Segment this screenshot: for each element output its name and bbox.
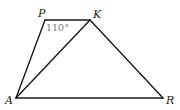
diagram-canvas: P K A R 110°	[0, 0, 180, 110]
angle-label-p: 110°	[46, 22, 69, 33]
point-label-a: A	[4, 94, 13, 107]
segment-pa	[16, 20, 45, 98]
point-label-k: K	[92, 8, 102, 21]
point-label-p: P	[37, 7, 46, 20]
point-label-r: R	[165, 94, 174, 107]
segment-kr	[90, 20, 163, 98]
geometry-diagram: P K A R 110°	[0, 0, 180, 110]
